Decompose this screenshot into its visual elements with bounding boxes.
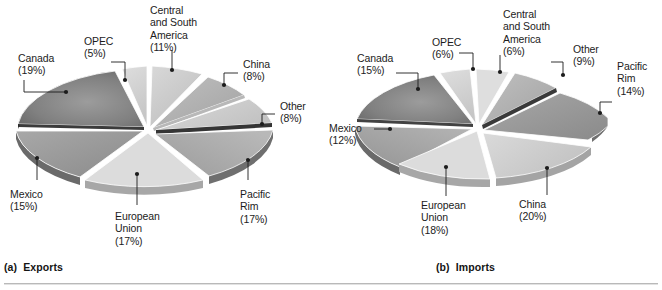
dot-exports-canada (64, 90, 68, 94)
label-exports-csa-line2: and South (150, 16, 197, 28)
label-exports-mexico: Mexico(15%) (10, 188, 43, 213)
label-exports-canada: Canada(19%) (18, 52, 54, 77)
label-imports-other-line2: (9%) (573, 55, 595, 67)
label-imports-eu-line2: Union (421, 211, 448, 223)
slice-imports-china[interactable] (483, 133, 591, 186)
label-imports-csa-line3: America (503, 33, 541, 45)
label-exports-opec-line1: OPEC (84, 35, 113, 47)
label-imports-pacific-line1: Pacific (617, 60, 647, 72)
label-imports-canada: Canada(15%) (357, 52, 393, 77)
label-imports-opec-line1: OPEC (432, 36, 461, 48)
label-exports-csa-line1: Central (150, 4, 183, 16)
label-imports-opec: OPEC(6%) (432, 36, 461, 61)
label-imports-other: Other(9%) (573, 43, 599, 68)
label-exports-china-line2: (8%) (243, 70, 265, 82)
label-exports-eu-line3: (17%) (115, 235, 143, 247)
label-imports-mexico: Mexico(12%) (329, 122, 362, 147)
figure-container: Canada(19%) OPEC(5%) Centraland SouthAme… (0, 0, 662, 290)
dot-exports-opec (123, 78, 127, 82)
footer-divider-shadow (4, 284, 658, 285)
label-exports-canada-line2: (19%) (18, 64, 46, 76)
label-exports-mexico-line2: (15%) (10, 200, 38, 212)
label-exports-other: Other(8%) (280, 100, 306, 125)
dot-exports-csa (170, 68, 174, 72)
dot-imports-mexico (388, 127, 392, 131)
label-imports-other-line1: Other (573, 43, 599, 55)
leader-imports-pacific (600, 102, 612, 113)
caption-exports: (a) Exports (4, 261, 63, 273)
dot-exports-eu (135, 172, 139, 176)
label-exports-csa-line3: America (150, 29, 188, 41)
label-imports-canada-line2: (15%) (357, 64, 385, 76)
dot-exports-other (260, 122, 264, 126)
label-imports-pacific-line3: (14%) (617, 85, 645, 97)
pie-exports (16, 50, 275, 205)
label-exports-pacific-line1: Pacific (240, 188, 270, 200)
dot-imports-opec (471, 67, 475, 71)
label-exports-pacific-rim: PacificRim(17%) (240, 188, 270, 225)
label-imports-csa-line2: and South (503, 20, 550, 32)
dot-imports-china (545, 166, 549, 170)
label-exports-eu-line1: European (115, 210, 160, 222)
label-exports-european-union: EuropeanUnion(17%) (115, 210, 160, 247)
dot-imports-pacific (598, 111, 602, 115)
dot-exports-china (222, 83, 226, 87)
label-imports-mexico-line2: (12%) (329, 134, 357, 146)
label-exports-china: China(8%) (243, 58, 270, 83)
label-imports-eu-line3: (18%) (421, 224, 449, 236)
label-exports-china-line1: China (243, 58, 270, 70)
dot-imports-csa (498, 70, 502, 74)
label-exports-opec: OPEC(5%) (84, 35, 113, 60)
label-imports-eu-line1: European (421, 199, 466, 211)
label-imports-china-line2: (20%) (519, 210, 547, 222)
label-exports-opec-line2: (5%) (84, 47, 106, 59)
label-imports-csa-line1: Central (503, 8, 536, 20)
label-exports-pacific-line2: Rim (240, 200, 258, 212)
dot-imports-canada (416, 87, 420, 91)
label-imports-mexico-line1: Mexico (329, 122, 362, 134)
label-imports-opec-line2: (6%) (432, 48, 454, 60)
label-imports-china: China(20%) (519, 198, 547, 223)
dot-exports-mexico (35, 156, 39, 160)
label-imports-csa: Centraland SouthAmerica(6%) (503, 8, 550, 58)
label-exports-csa-line4: (11%) (150, 41, 177, 53)
label-imports-pacific-line2: Rim (617, 72, 635, 84)
dot-imports-eu (444, 165, 448, 169)
label-exports-mexico-line1: Mexico (10, 188, 43, 200)
label-exports-eu-line2: Union (115, 222, 142, 234)
label-imports-pacific-rim: PacificRim(14%) (617, 60, 647, 97)
label-imports-csa-line4: (6%) (503, 45, 525, 57)
label-exports-pacific-line3: (17%) (240, 213, 268, 225)
caption-imports: (b) Imports (436, 261, 495, 273)
leader-exports-china (224, 73, 238, 85)
leader-imports-other (551, 62, 563, 75)
dot-imports-other (561, 73, 565, 77)
label-exports-other-line2: (8%) (280, 112, 302, 124)
label-exports-other-line1: Other (280, 100, 306, 112)
dot-exports-pacific (246, 158, 250, 162)
label-exports-csa: Centraland SouthAmerica(11%) (150, 4, 197, 54)
label-exports-canada-line1: Canada (18, 52, 54, 64)
label-imports-canada-line1: Canada (357, 52, 393, 64)
pie-imports (355, 53, 612, 196)
label-imports-china-line1: China (519, 198, 546, 210)
label-imports-european-union: EuropeanUnion(18%) (421, 199, 466, 236)
